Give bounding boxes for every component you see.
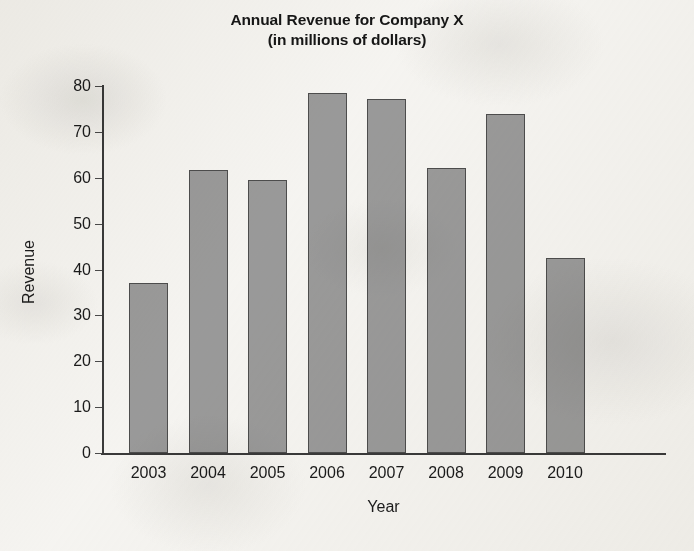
bar-2007 [367, 99, 406, 453]
y-axis-label: Revenue [14, 182, 44, 362]
y-axis-tick-label: 20 [73, 353, 91, 369]
y-axis-line [102, 85, 104, 454]
bar-chart-figure: Annual Revenue for Company X (in million… [0, 0, 694, 551]
y-axis-tick-mark [95, 270, 102, 271]
x-axis-label: Year [102, 498, 665, 516]
y-axis-tick-label: 50 [73, 216, 91, 232]
bar-2010 [546, 258, 585, 453]
bar-2006 [308, 93, 347, 453]
y-axis-tick-label: 0 [82, 445, 91, 461]
y-axis-tick-mark [95, 453, 102, 454]
chart-title-line-2: (in millions of dollars) [0, 30, 694, 50]
bar-2009 [486, 114, 525, 453]
x-axis-tick-label-2004: 2004 [184, 465, 233, 481]
y-axis-tick-mark [95, 315, 102, 316]
bar-2003 [129, 283, 168, 453]
x-axis-tick-label-2009: 2009 [481, 465, 530, 481]
x-axis-tick-label-2010: 2010 [541, 465, 590, 481]
bar-2008 [427, 168, 466, 453]
bar-2005 [248, 180, 287, 453]
x-axis-tick-label-2007: 2007 [362, 465, 411, 481]
y-axis-tick-label: 10 [73, 399, 91, 415]
y-axis-tick-mark [95, 224, 102, 225]
chart-title-line-1: Annual Revenue for Company X [0, 10, 694, 30]
bar-2004 [189, 170, 228, 454]
y-axis-tick-mark [95, 86, 102, 87]
y-axis-tick-label: 80 [73, 78, 91, 94]
y-axis-label-text: Revenue [20, 240, 38, 304]
plot-area: 01020304050607080 2003200420052006200720… [102, 86, 665, 453]
y-axis-tick-label: 60 [73, 170, 91, 186]
x-axis-tick-label-2005: 2005 [243, 465, 292, 481]
y-axis-tick-label: 40 [73, 262, 91, 278]
y-axis-tick-label: 30 [73, 307, 91, 323]
y-axis-tick-mark [95, 407, 102, 408]
x-axis-line [101, 453, 666, 455]
x-axis-tick-label-2008: 2008 [422, 465, 471, 481]
x-axis-tick-label-2006: 2006 [303, 465, 352, 481]
y-axis-tick-mark [95, 361, 102, 362]
y-axis-tick-label: 70 [73, 124, 91, 140]
chart-title: Annual Revenue for Company X (in million… [0, 10, 694, 50]
x-axis-tick-label-2003: 2003 [124, 465, 173, 481]
y-axis-tick-mark [95, 132, 102, 133]
y-axis-tick-mark [95, 178, 102, 179]
